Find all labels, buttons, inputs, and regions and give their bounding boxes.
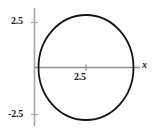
circle-graph-figure: 2.5 -2.5 2.5 x <box>0 0 158 131</box>
y-axis-tick-label-lower: -2.5 <box>8 109 23 119</box>
plot-canvas <box>0 0 158 131</box>
x-axis-tick-label-center: 2.5 <box>74 72 86 82</box>
x-axis-name-label: x <box>142 60 147 70</box>
y-axis-tick-label-upper: 2.5 <box>11 16 23 26</box>
